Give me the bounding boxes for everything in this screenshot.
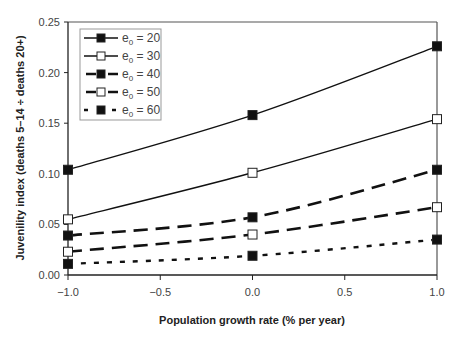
legend-label: e0 = 60 bbox=[122, 103, 160, 119]
x-tick-label: 1.0 bbox=[429, 286, 444, 298]
legend-label: e0 = 30 bbox=[122, 49, 160, 65]
legend-marker bbox=[97, 70, 105, 78]
data-point-marker bbox=[433, 165, 442, 174]
y-tick-label: 0.10 bbox=[39, 168, 60, 180]
x-axis-title: Population growth rate (% per year) bbox=[159, 314, 345, 326]
x-tick-label: −0.5 bbox=[149, 286, 171, 298]
y-axis-title: Juvenility index (deaths 5–14 ÷ deaths 2… bbox=[14, 35, 26, 261]
legend-marker bbox=[97, 106, 105, 114]
y-tick-label: 0.20 bbox=[39, 67, 60, 79]
data-point-marker bbox=[248, 213, 257, 222]
data-point-marker bbox=[433, 42, 442, 51]
legend-label: e0 = 20 bbox=[122, 31, 160, 47]
legend-label: e0 = 40 bbox=[122, 67, 160, 83]
series-e030 bbox=[64, 115, 442, 224]
data-point-marker bbox=[64, 259, 73, 268]
legend-marker bbox=[97, 34, 105, 42]
x-tick-label: −1.0 bbox=[57, 286, 79, 298]
legend: e0 = 20e0 = 30e0 = 40e0 = 50e0 = 60 bbox=[80, 29, 161, 120]
legend-marker bbox=[97, 52, 105, 60]
x-tick-label: 0.5 bbox=[337, 286, 352, 298]
legend-label: e0 = 50 bbox=[122, 85, 160, 101]
legend-marker bbox=[97, 88, 105, 96]
data-point-marker bbox=[248, 111, 257, 120]
data-point-marker bbox=[433, 115, 442, 124]
data-point-marker bbox=[248, 230, 257, 239]
x-axis: −1.0−0.50.00.51.0 bbox=[57, 275, 445, 298]
data-point-marker bbox=[64, 231, 73, 240]
data-point-marker bbox=[64, 247, 73, 256]
data-point-marker bbox=[433, 203, 442, 212]
y-tick-label: 0.05 bbox=[39, 218, 60, 230]
y-axis: 0.000.050.100.150.200.25 bbox=[39, 16, 68, 281]
line-chart: 0.000.050.100.150.200.25 −1.0−0.50.00.51… bbox=[0, 0, 461, 339]
data-point-marker bbox=[248, 251, 257, 260]
data-point-marker bbox=[433, 235, 442, 244]
data-point-marker bbox=[64, 215, 73, 224]
y-tick-label: 0.00 bbox=[39, 269, 60, 281]
series-e060 bbox=[64, 235, 442, 268]
series-line bbox=[68, 170, 437, 236]
data-point-marker bbox=[64, 165, 73, 174]
y-tick-label: 0.25 bbox=[39, 16, 60, 28]
y-tick-label: 0.15 bbox=[39, 117, 60, 129]
data-point-marker bbox=[248, 168, 257, 177]
series-e050 bbox=[64, 203, 442, 257]
x-tick-label: 0.0 bbox=[245, 286, 260, 298]
